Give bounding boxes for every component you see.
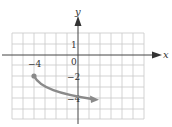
x-axis-label: x [163,49,169,60]
start-point [31,73,36,78]
curve-arrow-icon [90,96,99,104]
y-axis-arrow-icon [75,16,82,26]
y-axis-label: y [74,6,81,17]
y-tick-label-neg2: −2 [67,72,80,82]
x-axis-arrow-icon [152,52,162,59]
y-tick-label-1: 1 [71,40,77,50]
y-tick-label-0: 0 [71,57,77,67]
x-tick-label-neg4: −4 [28,59,42,69]
graph: x y −4 1 0 −2 −4 [0,0,172,127]
